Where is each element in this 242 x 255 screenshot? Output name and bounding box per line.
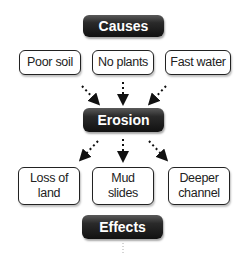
effect-deeper-channel: Deeper channel — [168, 167, 230, 205]
effect-line2: slides — [108, 186, 138, 201]
effects-header: Effects — [82, 215, 163, 239]
effect-line2: land — [38, 186, 60, 201]
effect-line1: Loss of — [30, 171, 68, 186]
effect-line1: Mud — [111, 171, 134, 186]
effect-loss-of-land: Loss of land — [18, 167, 80, 205]
effect-mud-slides: Mud slides — [92, 167, 154, 205]
cause-poor-soil: Poor soil — [19, 50, 81, 75]
causes-header: Causes — [83, 15, 164, 37]
effect-line1: Deeper — [179, 171, 218, 186]
erosion-node: Erosion — [83, 108, 164, 132]
effect-line2: channel — [178, 186, 220, 201]
cause-no-plants: No plants — [92, 50, 154, 75]
cause-fast-water: Fast water — [165, 50, 231, 75]
